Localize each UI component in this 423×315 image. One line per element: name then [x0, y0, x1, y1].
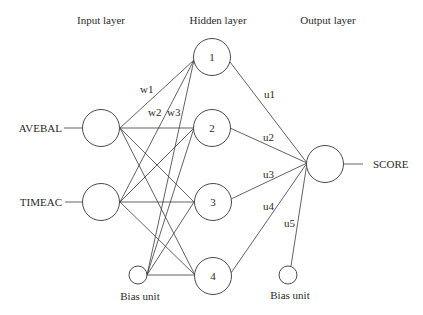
input-to-hidden-edges	[120, 60, 195, 275]
weight-label-w3: w3	[167, 106, 181, 118]
input-label-avebal: AVEBAL	[19, 122, 62, 134]
output-node-score	[307, 146, 344, 183]
hidden-node-4-label: 4	[210, 270, 216, 282]
weight-label-u1: u1	[264, 88, 275, 100]
weight-label-w2: w2	[148, 106, 161, 118]
weight-label-w1: w1	[140, 83, 153, 95]
neural-network-diagram: Input layer Hidden layer Output layer	[0, 0, 423, 315]
hidden-node-1-label: 1	[209, 51, 215, 63]
hidden-layer-title: Hidden layer	[189, 14, 246, 26]
hidden-node-2-label: 2	[209, 122, 215, 134]
weight-label-u3: u3	[263, 168, 275, 180]
weight-label-u5: u5	[284, 217, 296, 229]
output-bias-label: Bias unit	[270, 289, 309, 301]
hidden-node-3-label: 3	[210, 196, 216, 208]
input-node-avebal	[83, 110, 120, 147]
input-label-timeac: TIMEAC	[20, 196, 62, 208]
weight-label-u2: u2	[263, 131, 274, 143]
output-layer-title: Output layer	[300, 14, 356, 26]
input-bias-node	[129, 266, 147, 284]
output-label-score: SCORE	[373, 158, 409, 170]
input-layer-title: Input layer	[77, 14, 125, 26]
output-bias-node	[279, 266, 297, 284]
weight-label-u4: u4	[263, 200, 275, 212]
input-node-timeac	[83, 184, 120, 221]
input-bias-label: Bias unit	[120, 290, 159, 302]
